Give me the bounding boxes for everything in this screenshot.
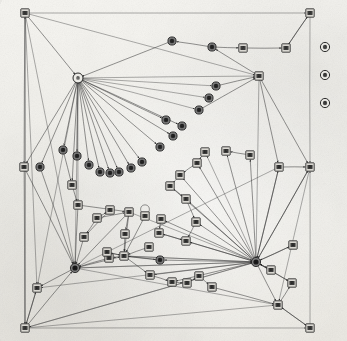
legend-item-2[interactable]: 8 [320, 70, 329, 79]
legend-item-3[interactable]: 9 [320, 98, 329, 107]
legend-item-1[interactable]: 7 [320, 42, 329, 51]
figure-canvas: 1234567891011121314151617181920212223242… [0, 0, 347, 341]
legend: 789 [0, 0, 347, 341]
